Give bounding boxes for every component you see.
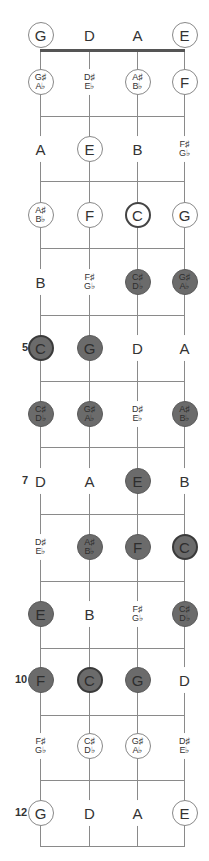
note-fret8-string-g: D♯E♭ [28,534,54,560]
note-fret3-string-e: G [172,202,198,228]
note-fret6-string-e: A♯B♭ [172,401,198,427]
note-fret9-string-e: C♯D♭ [172,601,198,627]
note-fret1-string-e: F [172,69,198,95]
note-label: E♭ [35,547,45,556]
note-fret4-string-g: B [28,269,54,295]
note-fret0-string-g: G [28,22,54,48]
fret-line-10 [40,715,185,716]
note-fret5-string-d: G [77,335,103,361]
note-fret11-string-d: C♯D♭ [77,733,103,759]
note-label: D♭ [132,282,143,291]
note-fret7-string-d: A [77,468,103,494]
note-label: G [84,341,96,356]
fretboard-diagram: GDAEG♯A♭D♯E♭A♯B♭FAEBF♯G♭A♯B♭FCGBF♯G♭C♯D♭… [0,0,209,861]
fret-number-10: 10 [15,673,27,685]
note-label: B [35,275,45,290]
note-label: D [132,341,143,356]
string-line-g [40,50,41,846]
note-label: A [132,806,142,821]
note-label: A♭ [132,746,142,755]
note-label: G♭ [35,746,46,755]
note-label: E [132,474,142,489]
note-label: F [133,540,142,555]
note-label: B♭ [84,547,94,556]
note-label: F [36,673,45,688]
note-label: E [35,607,45,622]
note-label: A♭ [179,282,189,291]
note-fret8-string-a: F [125,534,151,560]
note-fret12-string-d: D [77,800,103,826]
note-fret2-string-g: A [28,136,54,162]
note-fret9-string-g: E [28,601,54,627]
note-label: G [35,28,47,43]
note-fret5-string-a: D [125,335,151,361]
fret-line-2 [40,181,185,182]
fret-line-12 [40,846,185,847]
note-fret9-string-a: F♯G♭ [125,601,151,627]
note-fret1-string-g: G♯A♭ [28,69,54,95]
note-label: D [35,474,46,489]
fret-line-3 [40,248,185,249]
note-fret5-string-e: A [172,335,198,361]
string-line-d [89,50,90,846]
note-label: A [179,341,189,356]
note-label: B [132,142,142,157]
note-label: F [180,75,189,90]
note-label: A [35,142,45,157]
note-fret0-string-d: D [77,22,103,48]
note-fret8-string-e: C [172,534,198,560]
note-label: A [132,28,142,43]
note-label: D♭ [35,414,46,423]
note-fret12-string-a: A [125,800,151,826]
note-label: A♭ [84,414,94,423]
note-label: D♭ [179,614,190,623]
fret-line-4 [40,315,185,316]
note-label: G♭ [179,149,190,158]
note-fret2-string-a: B [125,136,151,162]
note-fret8-string-d: A♯B♭ [77,534,103,560]
note-fret5-string-g: C [28,335,54,361]
note-fret0-string-a: A [125,22,151,48]
string-line-a [137,50,138,846]
note-fret6-string-d: G♯A♭ [77,401,103,427]
nut [40,49,185,52]
note-fret12-string-e: E [172,800,198,826]
fret-line-5 [40,381,185,382]
note-label: E♭ [84,82,94,91]
note-fret1-string-a: A♯B♭ [125,69,151,95]
note-label: E [84,142,94,157]
note-fret12-string-g: G [28,800,54,826]
note-label: B [84,607,94,622]
note-fret10-string-e: D [172,667,198,693]
string-line-e [184,50,185,846]
note-fret7-string-e: B [172,468,198,494]
note-fret1-string-d: D♯E♭ [77,69,103,95]
note-label: G [35,806,47,821]
note-fret10-string-g: F [28,667,54,693]
note-label: G [179,208,191,223]
note-label: G [132,673,144,688]
note-label: E♭ [132,414,142,423]
note-fret11-string-e: D♯E♭ [172,733,198,759]
note-fret4-string-d: F♯G♭ [77,269,103,295]
fret-line-1 [40,116,185,117]
note-label: D [84,806,95,821]
fret-number-7: 7 [22,474,28,486]
note-fret6-string-g: C♯D♭ [28,401,54,427]
note-fret11-string-a: G♯A♭ [125,733,151,759]
note-label: G♭ [132,614,143,623]
note-label: C [84,673,95,688]
fret-number-5: 5 [22,341,28,353]
note-label: G♭ [84,282,95,291]
fret-line-11 [40,780,185,781]
note-label: D [84,28,95,43]
fret-line-6 [40,447,185,448]
note-label: D♭ [84,746,95,755]
fret-line-7 [40,514,185,515]
note-fret9-string-d: B [77,601,103,627]
note-fret3-string-g: A♯B♭ [28,202,54,228]
note-label: B♭ [132,82,142,91]
note-fret3-string-a: C [125,202,151,228]
note-fret2-string-e: F♯G♭ [172,136,198,162]
note-label: F [85,208,94,223]
